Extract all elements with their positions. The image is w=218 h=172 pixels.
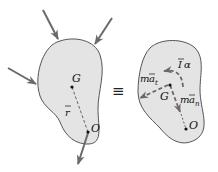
moment-label: I α (177, 59, 191, 70)
force-arrow-top-right (95, 18, 112, 44)
point-g-dot (168, 83, 171, 86)
normal-subscript: n (195, 100, 200, 108)
moment-label-alpha: α (184, 59, 191, 70)
right-body: G O I α m a t m a n (138, 41, 204, 143)
point-g-label: G (160, 90, 169, 103)
kinetic-diagram: G O r ≡ G O I α m a t (0, 0, 218, 172)
point-o-dot (184, 127, 187, 130)
point-o-label: O (189, 119, 198, 132)
force-arrow-top (43, 10, 58, 39)
left-body: G O r (8, 10, 112, 164)
point-g-dot (70, 85, 73, 88)
point-o-dot (86, 130, 89, 133)
tangential-subscript: t (155, 79, 158, 87)
force-arrow-left (8, 68, 36, 84)
equivalence-symbol: ≡ (112, 82, 125, 100)
point-o-label: O (91, 122, 100, 135)
point-g-label: G (72, 72, 81, 85)
